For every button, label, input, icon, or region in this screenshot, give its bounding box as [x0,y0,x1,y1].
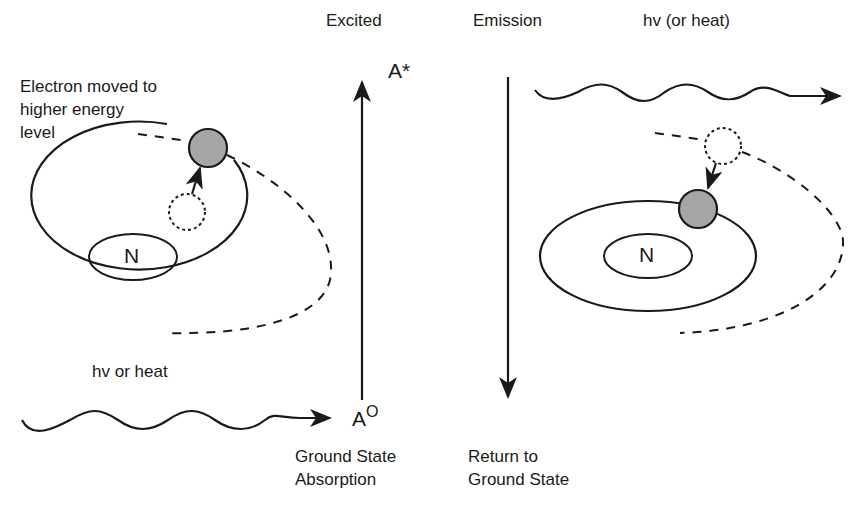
emission-label: Emission [473,10,542,32]
right-ground-electron [679,190,717,228]
ground-state-symbol: AO [352,408,378,432]
left-excited-orbit [138,134,331,333]
right-photon-wave [535,85,840,102]
excited-label: Excited [326,10,382,32]
hv-or-heat-left-label: hv or heat [92,361,168,383]
excited-state-symbol: A* [388,60,410,82]
right-electron-drop-arrow [708,163,716,188]
right-vacated-electron [705,128,741,164]
electron-label-line1: Electron moved to [20,76,157,98]
ground-state-superscript: O [366,403,378,420]
left-photon-wave [22,411,330,431]
electron-label-line3: level [20,122,55,144]
electron-label-line2: higher energy [20,99,124,121]
left-vacated-electron [169,194,205,230]
right-excited-orbit [655,133,843,333]
excited-state-text: A* [388,59,410,82]
left-atom [31,122,331,334]
ground-state-letter: A [352,407,366,430]
ground-state-label-line1: Ground State [295,446,396,468]
right-atom [540,128,843,333]
return-label-line1: Return to [468,446,538,468]
return-label-line2: Ground State [468,469,569,491]
left-excited-electron [189,129,227,167]
left-nucleus-label: N [124,245,139,267]
left-electron-jump-arrow [192,168,200,194]
right-nucleus-label: N [639,244,654,266]
hv-or-heat-right-label: hv (or heat) [643,10,730,32]
ground-state-label-line2: Absorption [295,469,376,491]
